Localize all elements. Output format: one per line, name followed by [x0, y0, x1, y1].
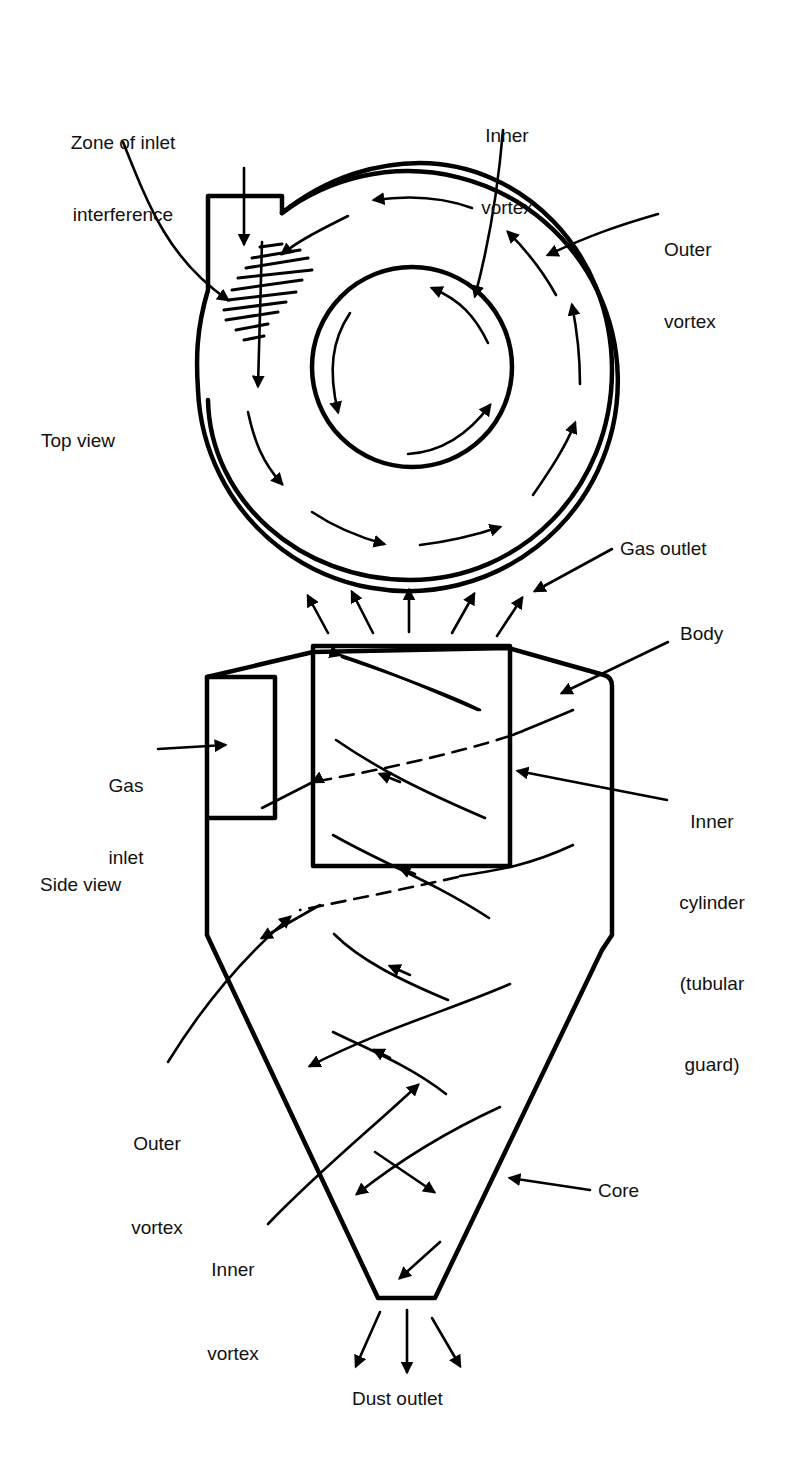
label-line: (tubular — [667, 970, 757, 997]
leader-core — [510, 1178, 590, 1190]
label-outer-vortex-side: Outer vortex — [120, 1074, 194, 1270]
label-inner-vortex-side: Inner vortex — [196, 1200, 270, 1396]
side-view-inner-cylinder — [313, 646, 510, 866]
label-top-view: Top view — [41, 429, 115, 453]
dust-outlet-arrows — [356, 1310, 460, 1372]
label-outer-vortex-top: Outer vortex — [664, 190, 744, 358]
label-line: Gas — [96, 774, 156, 798]
label-body: Body — [680, 622, 723, 646]
label-inner-cylinder: Inner cylinder (tubular guard) — [667, 754, 757, 1105]
label-line: vortex — [664, 310, 744, 334]
leader-inner-vortex-side — [268, 1085, 418, 1224]
leader-outer-vortex-side — [168, 917, 290, 1062]
label-line: vortex — [196, 1340, 270, 1368]
label-line: guard) — [667, 1051, 757, 1078]
label-inner-vortex-top: Inner vortex — [468, 76, 546, 244]
side-view-gas-inlet — [207, 677, 275, 818]
label-core: Core — [598, 1179, 639, 1203]
inlet-interference-hatch — [224, 244, 312, 340]
label-line: Outer — [664, 238, 744, 262]
top-view-housing — [197, 171, 618, 591]
label-dust-outlet: Dust outlet — [352, 1387, 443, 1411]
label-line: interference — [52, 203, 194, 227]
label-gas-outlet: Gas outlet — [620, 537, 707, 561]
label-line: Inner — [196, 1256, 270, 1284]
label-line: vortex — [468, 196, 546, 220]
label-line: Outer — [120, 1130, 194, 1158]
leader-gas-outlet — [535, 549, 612, 591]
label-zone-of-inlet-interference: Zone of inlet interference — [52, 83, 194, 251]
label-line: inlet — [96, 846, 156, 870]
leader-inner-cylinder — [518, 771, 667, 800]
label-line: vortex — [120, 1214, 194, 1242]
gas-outlet-arrows — [308, 549, 612, 636]
label-line: Inner — [468, 124, 546, 148]
label-line: Inner — [667, 808, 757, 835]
top-view-inner-cylinder — [312, 267, 512, 467]
label-line: cylinder — [667, 889, 757, 916]
top-view — [123, 130, 658, 591]
label-gas-inlet: Gas inlet — [96, 726, 156, 894]
label-side-view: Side view — [40, 873, 121, 897]
label-line: Zone of inlet — [52, 131, 194, 155]
